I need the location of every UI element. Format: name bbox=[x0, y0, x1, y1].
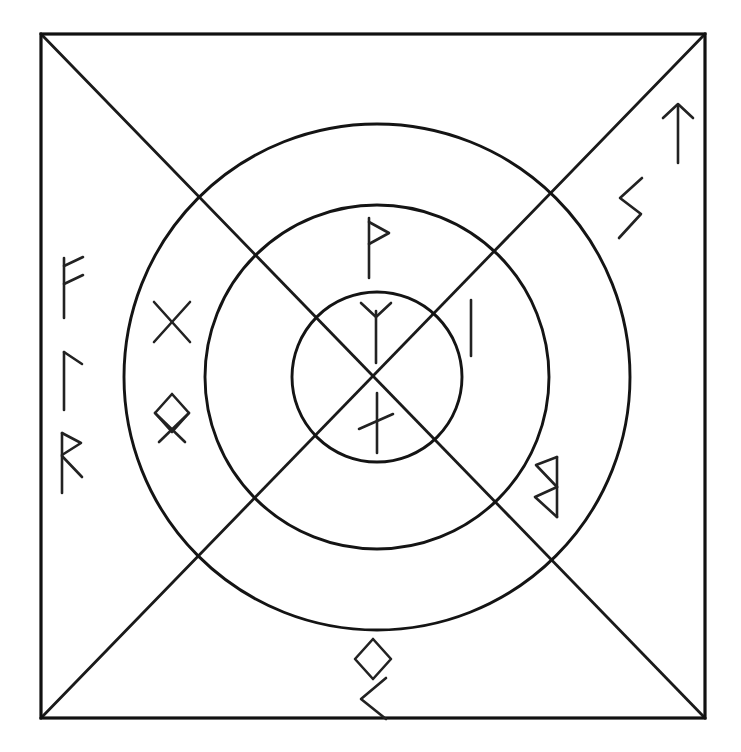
runic-mandala-figure: ᚠ (F)ᛚ (L)ᚱ (R)ᛏ (T)ᛊ (S)ᛒ (B)ᛜ (NG)ᚲ (K… bbox=[0, 0, 741, 752]
runic-diagram-canvas: ᚠ (F)ᛚ (L)ᚱ (R)ᛏ (T)ᛊ (S)ᛒ (B)ᛜ (NG)ᚲ (K… bbox=[0, 0, 741, 752]
